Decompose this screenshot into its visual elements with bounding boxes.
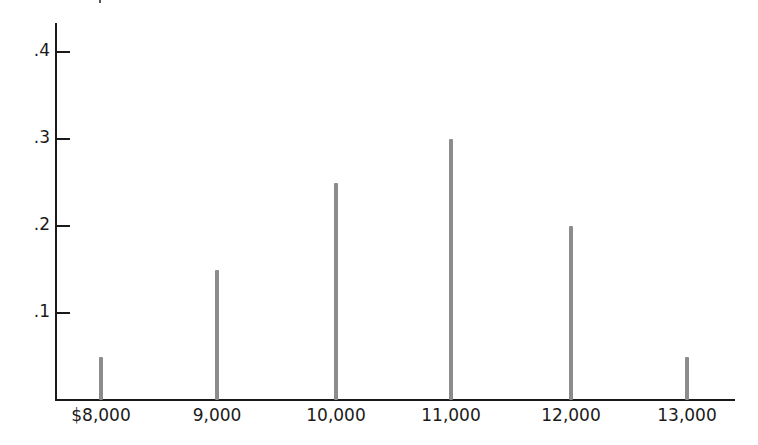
x-tick-label: 11,000 [401,405,501,425]
x-tick-label: 10,000 [286,405,386,425]
bar [215,270,219,401]
y-axis [55,23,57,401]
y-tick-label: .1 [0,301,50,321]
bar [99,357,103,401]
bar [334,183,338,401]
y-tick-label: .2 [0,214,50,234]
y-tick [55,51,70,53]
x-tick-label: 12,000 [521,405,621,425]
y-tick [55,225,70,227]
bar [449,139,453,400]
x-tick-label: $8,000 [51,405,151,425]
x-axis [55,399,735,401]
x-tick-label: 9,000 [167,405,267,425]
x-tick-label: 13,000 [637,405,737,425]
bar [569,226,573,400]
y-tick [55,138,70,140]
y-tick-label: .3 [0,127,50,147]
y-tick-label: .4 [0,40,50,60]
bar [685,357,689,401]
y-tick [55,312,70,314]
cropped-text-fragment [99,0,101,3]
